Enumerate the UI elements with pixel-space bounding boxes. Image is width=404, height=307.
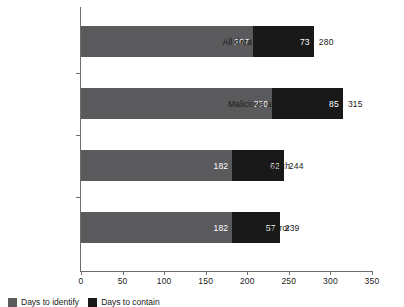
category-label: All data breaches	[214, 37, 290, 47]
x-axis-tick	[289, 271, 290, 275]
x-axis-tick	[164, 271, 165, 275]
category-label: Malicious attack	[214, 99, 290, 109]
legend-swatch-days-to-contain	[88, 298, 97, 307]
y-axis-tick	[76, 197, 81, 198]
x-axis-tick	[81, 271, 82, 275]
x-axis-tick-label: 250	[281, 276, 296, 286]
x-axis-tick-label: 50	[118, 276, 128, 286]
bar-segment-days-to-identify: 182	[81, 150, 232, 181]
category-label: System glitch	[214, 161, 290, 171]
x-axis-tick	[330, 271, 331, 275]
x-axis-tick	[372, 271, 373, 275]
y-axis-tick	[76, 135, 81, 136]
x-axis-tick-label: 150	[198, 276, 213, 286]
x-axis-tick	[123, 271, 124, 275]
legend-label-days-to-contain: Days to contain	[101, 298, 160, 307]
x-axis-line	[80, 271, 373, 272]
plot-area: 20773280All data breaches23085315Malicio…	[81, 8, 372, 271]
bar-row: 23085	[81, 88, 343, 119]
legend-item-days-to-contain: Days to contain	[88, 298, 160, 307]
bar-value-days-to-contain: 85	[329, 99, 339, 109]
legend-item-days-to-identify: Days to identify	[8, 298, 79, 307]
x-axis-tick-label: 350	[365, 276, 380, 286]
bar-total-label: 315	[348, 99, 363, 109]
bar-total-label: 244	[289, 161, 304, 171]
stacked-bar-chart: 20773280All data breaches23085315Malicio…	[0, 0, 404, 307]
bar-value-days-to-contain: 73	[300, 37, 310, 47]
bar-segment-days-to-identify: 182	[81, 212, 232, 243]
x-axis-tick-label: 300	[323, 276, 338, 286]
bar-total-label: 280	[319, 37, 334, 47]
x-axis-tick-label: 100	[157, 276, 172, 286]
x-axis-tick-label: 200	[240, 276, 255, 286]
x-axis-tick	[247, 271, 248, 275]
y-axis-tick	[76, 73, 81, 74]
x-axis-tick	[206, 271, 207, 275]
legend-swatch-days-to-identify	[8, 298, 17, 307]
x-axis-tick-label: 0	[79, 276, 84, 286]
legend-label-days-to-identify: Days to identify	[21, 298, 79, 307]
category-label: Human error	[214, 223, 290, 233]
chart-legend: Days to identify Days to contain	[8, 297, 160, 307]
